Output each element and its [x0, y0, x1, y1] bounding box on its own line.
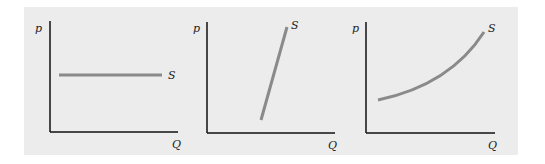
curve-label: S: [488, 22, 496, 35]
chart-convex-supply: p Q S: [352, 22, 497, 152]
chart-horizontal-supply: p Q S: [35, 21, 181, 151]
supply-curves-figure: p Q S p Q S p Q S: [0, 0, 545, 164]
x-axis-label: Q: [172, 138, 181, 151]
curve-label: S: [291, 19, 299, 32]
curve-label: S: [168, 69, 176, 82]
chart-steep-supply: p Q S: [193, 19, 337, 152]
y-axis-label: p: [352, 22, 359, 35]
y-axis-label: p: [35, 22, 42, 35]
x-axis-label: Q: [488, 139, 497, 152]
supply-curve: [261, 27, 287, 120]
y-axis-label: p: [193, 22, 200, 35]
x-axis-label: Q: [328, 139, 337, 152]
supply-curve: [378, 32, 484, 100]
